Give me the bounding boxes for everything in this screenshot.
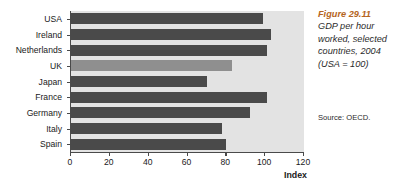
x-tick-mark	[225, 152, 226, 156]
category-axis-labels: USAIrelandNetherlandsUKJapanFranceGerman…	[0, 11, 66, 152]
y-tick-mark	[67, 82, 71, 83]
x-tick-mark	[303, 152, 304, 156]
x-tick-label-60: 60	[182, 157, 192, 167]
y-tick-mark	[67, 144, 71, 145]
y-tick-mark	[67, 97, 71, 98]
source-note: Source: OECD.	[318, 113, 416, 122]
figure-caption-line: countries, 2004	[318, 45, 416, 57]
bars-layer	[71, 11, 304, 152]
category-label-france: France	[0, 92, 66, 102]
bar-spain	[71, 139, 226, 150]
category-label-japan: Japan	[0, 77, 66, 87]
y-tick-mark	[67, 113, 71, 114]
category-label-ireland: Ireland	[0, 30, 66, 40]
bar-chart: USAIrelandNetherlandsUKJapanFranceGerman…	[0, 0, 310, 193]
category-label-netherlands: Netherlands	[0, 45, 66, 55]
figure-caption-text: GDP per hourworked, selectedcountries, 2…	[318, 20, 416, 70]
bar-usa	[71, 13, 263, 24]
category-label-germany: Germany	[0, 108, 66, 118]
category-label-spain: Spain	[0, 139, 66, 149]
x-tick-label-100: 100	[257, 157, 271, 167]
y-tick-mark	[67, 50, 71, 51]
category-label-usa: USA	[0, 14, 66, 24]
figure-number: Figure 29.11	[318, 8, 416, 20]
x-tick-mark	[187, 152, 188, 156]
bar-ireland	[71, 29, 271, 40]
x-tick-label-80: 80	[221, 157, 231, 167]
x-tick-label-0: 0	[68, 157, 73, 167]
x-tick-mark	[70, 152, 71, 156]
x-tick-label-20: 20	[104, 157, 114, 167]
bar-italy	[71, 123, 222, 134]
value-axis: Index 020406080100120	[70, 152, 305, 192]
y-tick-mark	[67, 35, 71, 36]
x-tick-mark	[109, 152, 110, 156]
figure-container: USAIrelandNetherlandsUKJapanFranceGerman…	[0, 0, 418, 193]
category-label-uk: UK	[0, 61, 66, 71]
x-tick-mark	[148, 152, 149, 156]
x-axis-title: Index	[284, 170, 307, 180]
bar-france	[71, 92, 267, 103]
figure-caption-line: GDP per hour	[318, 20, 416, 32]
bar-germany	[71, 107, 250, 118]
figure-caption-line: worked, selected	[318, 33, 416, 45]
figure-caption-line: (USA = 100)	[318, 58, 416, 70]
bar-netherlands	[71, 45, 267, 56]
plot-area	[70, 11, 304, 153]
category-label-italy: Italy	[0, 124, 66, 134]
y-tick-mark	[67, 129, 71, 130]
y-tick-mark	[67, 66, 71, 67]
figure-caption-block: Figure 29.11 GDP per hourworked, selecte…	[318, 8, 416, 70]
x-tick-label-120: 120	[296, 157, 310, 167]
x-tick-mark	[264, 152, 265, 156]
bar-uk	[71, 60, 232, 71]
x-tick-label-40: 40	[143, 157, 153, 167]
bar-japan	[71, 76, 207, 87]
y-tick-mark	[67, 19, 71, 20]
